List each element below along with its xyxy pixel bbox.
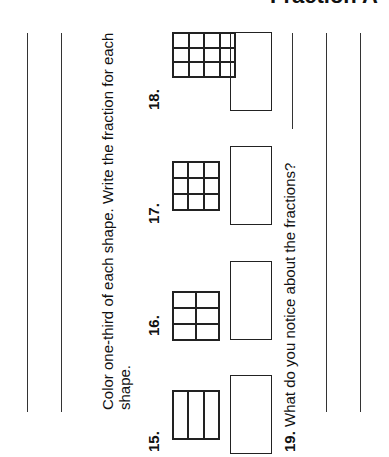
shape-cell[interactable]: [196, 308, 219, 324]
shape-cell[interactable]: [204, 391, 219, 439]
shape-cell[interactable]: [188, 194, 203, 210]
shape-cell[interactable]: [188, 391, 203, 439]
shape-cell[interactable]: [173, 33, 189, 48]
answer-box-18[interactable]: [230, 32, 272, 111]
shape-17-ninths: [172, 161, 220, 211]
shape-cell[interactable]: [173, 194, 188, 210]
answer-box-17[interactable]: [230, 146, 272, 225]
instruction-line-2: shape.: [116, 33, 133, 410]
problem-17-number: 17.: [145, 203, 162, 224]
shape-cell[interactable]: [204, 33, 220, 48]
shape-cell[interactable]: [173, 178, 188, 194]
answer-line-right-1: [326, 33, 327, 412]
shape-cell[interactable]: [173, 324, 196, 340]
shape-cell[interactable]: [173, 308, 196, 324]
page-title: Fraction A: [270, 0, 378, 9]
instructions: Color one-third of each shape. Write the…: [99, 33, 133, 410]
shape-cell[interactable]: [188, 178, 203, 194]
problem-15-number: 15.: [145, 431, 162, 452]
shape-15-thirds: [172, 390, 220, 440]
shape-cell[interactable]: [173, 62, 189, 77]
answer-box-15[interactable]: [230, 375, 272, 454]
answer-line-left-2: [61, 33, 62, 412]
problem-18-number: 18.: [145, 89, 162, 110]
shape-cell[interactable]: [173, 48, 189, 63]
answer-line-right-2: [360, 33, 361, 412]
shape-cell[interactable]: [173, 292, 196, 308]
shape-cell[interactable]: [189, 48, 205, 63]
question-19-number: 19.: [281, 431, 298, 452]
shape-cell[interactable]: [204, 48, 220, 63]
shape-cell[interactable]: [189, 33, 205, 48]
shape-16-sixths: [172, 291, 220, 341]
shape-cell[interactable]: [196, 292, 219, 308]
instruction-line-1: Color one-third of each shape. Write the…: [99, 33, 116, 410]
shape-18-twelfths: [172, 32, 236, 78]
question-19-text: What do you notice about the fractions?: [281, 163, 298, 432]
answer-line-left-1: [27, 33, 28, 412]
question-19-answer-line[interactable]: [292, 33, 293, 129]
shape-cell[interactable]: [173, 391, 188, 439]
shape-cell[interactable]: [204, 62, 220, 77]
problem-16-number: 16.: [145, 315, 162, 336]
question-19: 19. What do you notice about the fractio…: [281, 163, 298, 452]
shape-cell[interactable]: [204, 162, 219, 178]
shape-cell[interactable]: [188, 162, 203, 178]
shape-cell[interactable]: [173, 162, 188, 178]
shape-cell[interactable]: [189, 62, 205, 77]
answer-box-16[interactable]: [230, 261, 272, 340]
shape-cell[interactable]: [204, 194, 219, 210]
shape-cell[interactable]: [196, 324, 219, 340]
shape-cell[interactable]: [204, 178, 219, 194]
